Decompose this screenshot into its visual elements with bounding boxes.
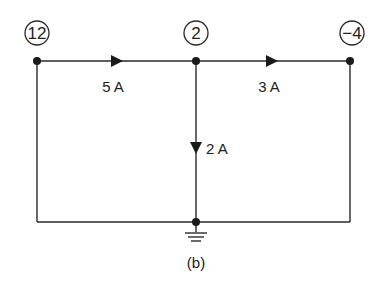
current-label-3a: 3 A — [258, 78, 280, 95]
node-dot-middle — [192, 57, 200, 65]
arrow-right-icon — [111, 55, 123, 67]
circuit-diagram: 12 2 −4 5 A 3 A 2 A (b) — [0, 0, 382, 282]
arrow-down-icon — [190, 142, 202, 154]
node-voltage-right: −4 — [342, 24, 361, 43]
arrow-right-icon — [266, 55, 278, 67]
node-voltage-left: 12 — [28, 24, 47, 43]
current-label-2a: 2 A — [206, 140, 228, 157]
node-dot-ground — [192, 218, 200, 226]
ground-icon — [185, 233, 207, 241]
figure-caption: (b) — [187, 254, 205, 271]
current-label-5a: 5 A — [102, 78, 124, 95]
node-dot-left — [33, 57, 41, 65]
node-dot-right — [346, 57, 354, 65]
node-voltage-middle: 2 — [191, 24, 200, 43]
